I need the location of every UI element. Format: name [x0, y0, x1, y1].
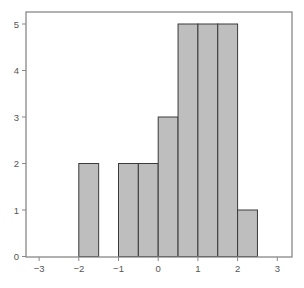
y-tick-label: 1 — [14, 205, 19, 216]
y-tick-label: 0 — [14, 251, 19, 262]
x-tick-label: −2 — [73, 263, 84, 274]
y-tick-label: 2 — [14, 158, 19, 169]
histogram-bar — [119, 164, 139, 257]
x-axis: −3−2−10123 — [34, 257, 280, 274]
y-tick-label: 4 — [14, 65, 19, 76]
y-tick-label: 3 — [14, 112, 19, 123]
histogram-bars — [79, 24, 258, 257]
histogram-bar — [218, 24, 238, 257]
x-tick-label: 3 — [275, 263, 280, 274]
histogram-bar — [158, 117, 178, 257]
histogram-bar — [198, 24, 218, 257]
x-tick-label: 1 — [195, 263, 200, 274]
histogram-chart: −3−2−10123 012345 — [0, 0, 304, 288]
x-tick-label: 2 — [235, 263, 240, 274]
y-axis: 012345 — [14, 19, 26, 263]
histogram-bar — [178, 24, 198, 257]
x-tick-label: 0 — [156, 263, 161, 274]
histogram-bar — [238, 210, 258, 257]
histogram-bar — [138, 164, 158, 257]
y-tick-label: 5 — [14, 19, 19, 30]
x-tick-label: −1 — [113, 263, 124, 274]
histogram-bar — [79, 164, 99, 257]
x-tick-label: −3 — [34, 263, 45, 274]
